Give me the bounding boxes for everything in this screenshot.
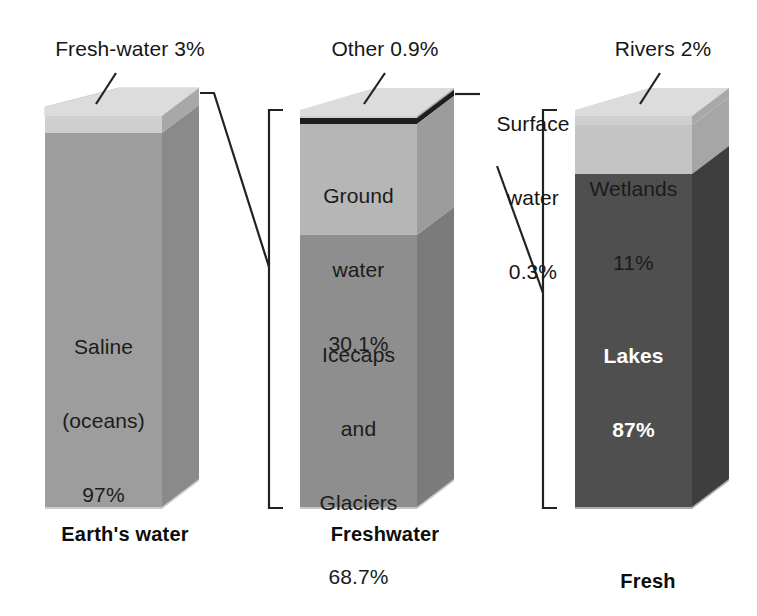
connector-earths-water-to-freshwater [200,93,269,267]
ground-water-line-1: Ground [300,184,417,209]
icecaps-line-4: 68.7% [300,565,417,590]
callout-rivers: Rivers 2% [578,37,748,62]
ground-water-line-2: water [300,258,417,283]
caption-earths-water: Earth's water [25,523,225,547]
saline-line-3: 97% [45,483,162,508]
saline-line-1: Saline [45,335,162,360]
icecaps-line-3: Glaciers [300,491,417,516]
saline-line-2: (oceans) [45,409,162,434]
caption-fresh-surface-water: Fresh surface water (liquid) [548,523,748,616]
segment-label-icecaps-glaciers: Icecaps and Glaciers 68.7% [300,293,417,616]
bracket-freshwater [269,110,283,508]
wetlands-line-1: Wetlands [575,177,692,202]
wetlands-line-2: 11% [575,251,692,276]
lakes-side-face [692,146,729,507]
surface-water-line-3: 0.3% [478,260,588,285]
chart-canvas: Fresh-water 3% Saline (oceans) 97% Earth… [0,0,757,616]
icecaps-glaciers-side-face [417,207,454,507]
rivers-front-face [575,116,692,125]
lakes-line-1: Lakes [575,344,692,369]
saline-side-face [162,105,199,507]
icecaps-line-1: Icecaps [300,343,417,368]
callout-fresh-water: Fresh-water 3% [30,37,230,62]
icecaps-line-2: and [300,417,417,442]
surface-water-line-1: Surface [478,112,588,137]
segment-label-lakes: Lakes 87% [575,294,692,492]
surface-water-line-2: water [478,186,588,211]
fresh-surface-caption-line-1: Fresh [548,570,748,594]
callout-surface-water: Surface water 0.3% [478,62,588,334]
segment-label-saline-oceans: Saline (oceans) 97% [45,285,162,557]
caption-freshwater: Freshwater [285,523,485,547]
lakes-line-2: 87% [575,418,692,443]
fresh-water-front-face [45,116,162,133]
callout-other: Other 0.9% [295,37,475,62]
